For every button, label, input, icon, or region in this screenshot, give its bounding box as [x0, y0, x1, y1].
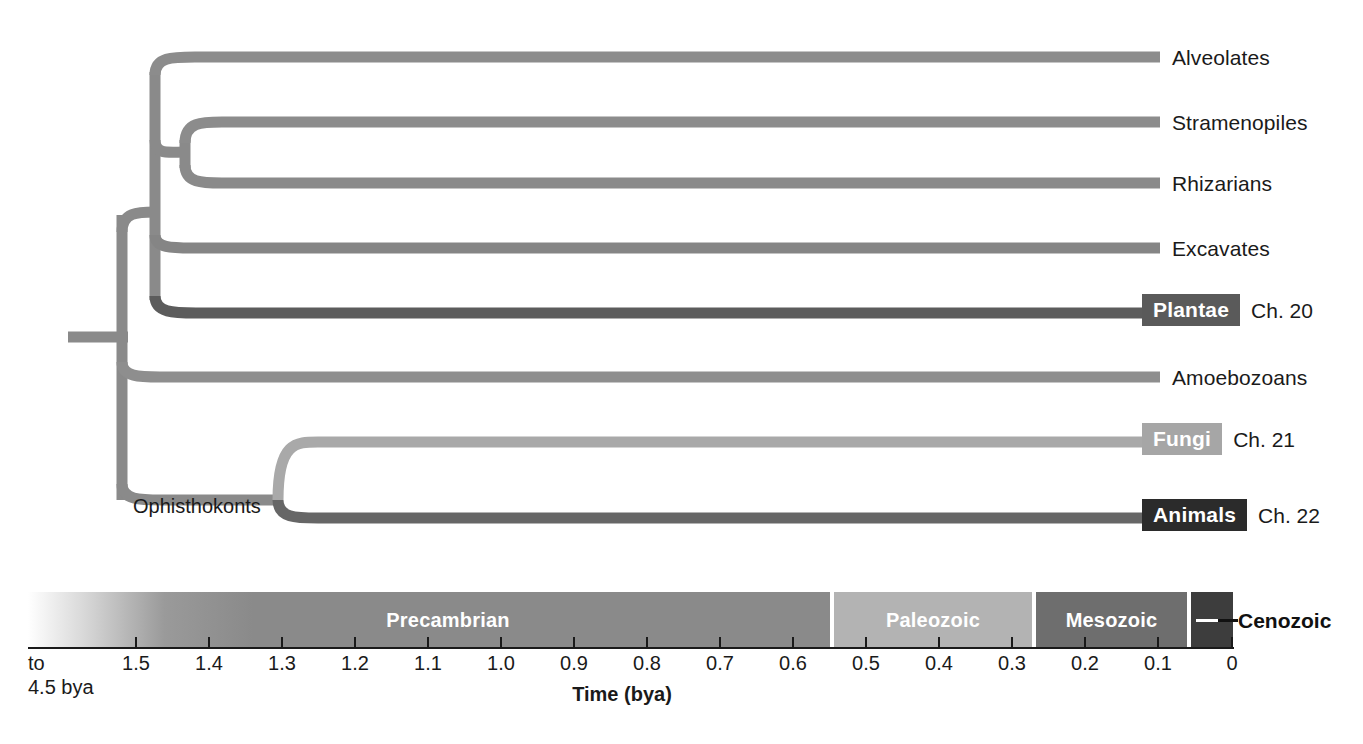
- tick-label-0.8: 0.8: [633, 652, 661, 675]
- tip-tag-fungi: Fungi Ch. 21: [1142, 423, 1295, 455]
- tick-1.3: [281, 637, 283, 647]
- tick-label-0.1: 0.1: [1144, 652, 1172, 675]
- tick-0.1: [1157, 637, 1159, 647]
- era-label-precambrian: Precambrian: [386, 609, 509, 632]
- tick-1.2: [354, 637, 356, 647]
- time-axis-line: [28, 647, 1234, 649]
- tick-0.3: [1011, 637, 1013, 647]
- branch-alveolates: [155, 57, 1160, 75]
- branch-plantae: [155, 296, 1145, 313]
- time-axis-title: Time (bya): [572, 683, 672, 706]
- tip-label-alveolates: Alveolates: [1172, 47, 1270, 68]
- tip-tag-plantae: Plantae Ch. 20: [1142, 294, 1313, 326]
- era-mesozoic: Mesozoic: [1036, 592, 1187, 648]
- tick-label-0.2: 0.2: [1071, 652, 1099, 675]
- era-precambrian: Precambrian: [28, 592, 830, 648]
- tick-label-0.3: 0.3: [998, 652, 1026, 675]
- axis-left-cap-line1: to: [28, 652, 94, 676]
- tick-label-1.0: 1.0: [487, 652, 515, 675]
- tick-label-1.3: 1.3: [268, 652, 296, 675]
- tick-label-0.6: 0.6: [779, 652, 807, 675]
- tick-0.2: [1084, 637, 1086, 647]
- era-paleozoic: Paleozoic: [834, 592, 1032, 648]
- tick-label-1.5: 1.5: [122, 652, 150, 675]
- tick-0.9: [573, 637, 575, 647]
- tick-0.4: [938, 637, 940, 647]
- branch-excavates: [155, 235, 1160, 248]
- node-label-ophisthokonts: Ophisthokonts: [133, 495, 261, 518]
- tick-0.7: [719, 637, 721, 647]
- era-label-cenozoic: Cenozoic: [1238, 609, 1331, 633]
- tick-label-1.1: 1.1: [414, 652, 442, 675]
- tick-1.1: [427, 637, 429, 647]
- tick-label-0.5: 0.5: [852, 652, 880, 675]
- era-separator-2: [1032, 592, 1036, 648]
- era-label-paleozoic: Paleozoic: [886, 609, 980, 632]
- tick-0: [1231, 637, 1233, 647]
- tip-chip-plantae: Plantae: [1142, 294, 1240, 326]
- tick-label-1.4: 1.4: [195, 652, 223, 675]
- era-separator-1: [830, 592, 834, 648]
- tick-0.5: [865, 637, 867, 647]
- tip-chip-fungi: Fungi: [1142, 423, 1222, 455]
- tick-label-0.7: 0.7: [706, 652, 734, 675]
- branch-fungi: [278, 442, 1145, 500]
- tick-0.8: [646, 637, 648, 647]
- figure-canvas: Alveolates Stramenopiles Rhizarians Exca…: [0, 0, 1363, 744]
- tip-tag-animals: Animals Ch. 22: [1142, 499, 1320, 531]
- tick-label-0.9: 0.9: [560, 652, 588, 675]
- tick-0.6: [792, 637, 794, 647]
- tick-1.4: [208, 637, 210, 647]
- tip-label-stramenopiles: Stramenopiles: [1172, 112, 1308, 133]
- cenozoic-leader-black: [1218, 619, 1238, 622]
- tick-1.5: [135, 637, 137, 647]
- era-label-mesozoic: Mesozoic: [1066, 609, 1158, 632]
- cenozoic-leader-white: [1196, 619, 1218, 622]
- tip-chip-animals: Animals: [1142, 499, 1247, 531]
- tip-label-amoebozoans: Amoebozoans: [1172, 367, 1307, 388]
- axis-left-cap: to 4.5 bya: [28, 652, 94, 699]
- tip-label-excavates: Excavates: [1172, 238, 1270, 259]
- tip-chapter-animals: Ch. 22: [1258, 505, 1320, 526]
- branch-rhizarians: [185, 165, 1160, 183]
- tip-chapter-plantae: Ch. 20: [1251, 300, 1313, 321]
- tick-label-0.4: 0.4: [925, 652, 953, 675]
- era-separator-3: [1187, 592, 1191, 648]
- tick-1.0: [500, 637, 502, 647]
- branch-stramenopiles: [185, 122, 1160, 143]
- axis-left-cap-line2: 4.5 bya: [28, 676, 94, 700]
- tick-label-0: 0: [1226, 652, 1237, 675]
- branch-animals: [278, 500, 1145, 518]
- tick-label-1.2: 1.2: [341, 652, 369, 675]
- branch-amoebozoans: [122, 362, 1160, 377]
- tip-chapter-fungi: Ch. 21: [1233, 429, 1295, 450]
- tip-label-rhizarians: Rhizarians: [1172, 173, 1272, 194]
